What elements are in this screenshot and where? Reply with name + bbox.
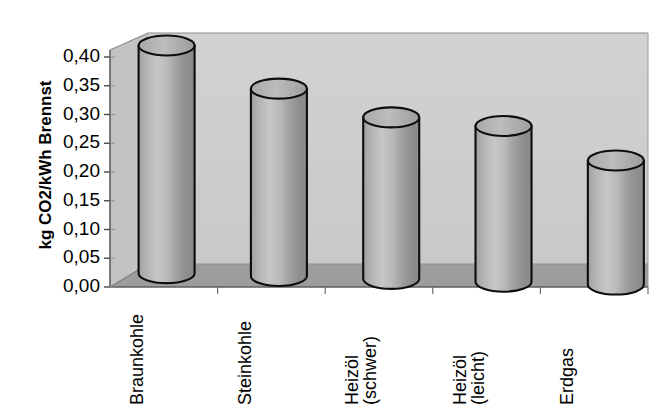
x-category-label-line: Steinkohle [236,321,254,405]
x-category-label-line: Erdgas [558,348,576,405]
bar-top-cap [588,151,644,171]
bar-cylinder [588,151,644,295]
co2-emission-bar-chart: kg CO2/kWh Brennst 0,400,350,300,250,200… [0,0,669,413]
x-category-label-line: Heizöl [451,351,469,405]
x-category-label-line: (schwer) [362,336,380,405]
bar-body [588,161,644,295]
x-category-label: Heizöl(leicht) [451,351,488,405]
x-category-label-line: (leicht) [469,351,487,405]
y-axis-tick-labels: 0,400,350,300,250,200,150,100,050,00 [30,0,100,413]
bar-top-cap [363,107,419,127]
bar-top-cap [476,116,532,136]
bar-cylinder [363,107,419,288]
bar-top-cap [139,36,195,56]
y-tick-label: 0,10 [38,219,100,238]
x-category-label: Heizöl(schwer) [343,336,380,405]
x-category-label-line: Braunkohle [128,314,146,405]
bar-cylinder [139,36,195,284]
y-tick-label: 0,30 [38,104,100,123]
y-tick-label: 0,40 [38,46,100,65]
x-category-label-line: Heizöl [343,336,361,405]
bar-top-cap [251,79,307,99]
bar-body [363,117,419,288]
bar-cylinder [476,116,532,292]
y-tick-label: 0,20 [38,161,100,180]
y-tick-label: 0,35 [38,75,100,94]
x-axis-tick-marks [218,287,648,294]
x-category-label: Braunkohle [128,314,146,405]
bar-body [476,126,532,292]
bar-body [139,46,195,284]
y-tick-label: 0,00 [38,276,100,295]
x-category-label: Steinkohle [236,321,254,405]
x-category-label: Erdgas [558,348,576,405]
y-tick-label: 0,25 [38,132,100,151]
bar-body [251,89,307,286]
bar-cylinder [251,79,307,286]
y-tick-label: 0,15 [38,190,100,209]
y-tick-label: 0,05 [38,247,100,266]
